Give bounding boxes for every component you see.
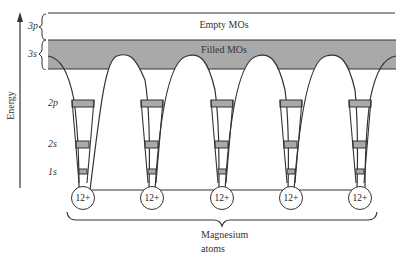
label-3p: 3p — [28, 20, 38, 31]
atom-nucleus: 12+ — [279, 186, 303, 210]
label-3s: 3s — [28, 48, 37, 59]
caption-line1: Magnesium — [201, 228, 248, 241]
atom-nucleus: 12+ — [210, 186, 234, 210]
filled-mos-label: Filled MOs — [201, 44, 247, 55]
atom-nucleus: 12+ — [140, 186, 164, 210]
label-2p: 2p — [48, 97, 58, 108]
label-2s: 2s — [48, 138, 57, 149]
energy-arrow-head-icon — [17, 12, 23, 22]
label-1s: 1s — [48, 166, 57, 177]
atom-nucleus: 12+ — [71, 186, 95, 210]
atoms-brace — [67, 212, 377, 226]
energy-axis-label: Energy — [5, 91, 16, 120]
brace-3s — [39, 40, 46, 70]
band-diagram-graphic — [0, 0, 408, 257]
brace-3p — [39, 14, 46, 40]
atom-nucleus: 12+ — [348, 186, 372, 210]
caption-line2: atoms — [201, 242, 225, 255]
empty-mos-label: Empty MOs — [199, 19, 248, 30]
